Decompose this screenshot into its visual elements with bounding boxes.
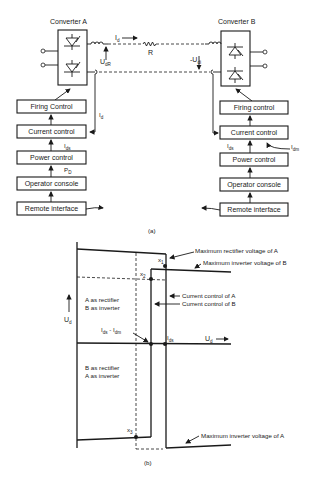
- converter-b-control-stack: Firing control Current control Ids Idm P…: [202, 78, 299, 216]
- svg-text:Idm: Idm: [291, 143, 299, 152]
- svg-text:Firing control: Firing control: [234, 104, 275, 112]
- annotation-current-control-b: Current control of B: [182, 300, 236, 307]
- point-ids: [163, 342, 167, 346]
- converter-b-bridge: [221, 31, 267, 86]
- svg-text:Ids: Ids: [64, 142, 71, 151]
- zero-current-axis: [77, 343, 231, 344]
- svg-text:Operator console: Operator console: [25, 180, 79, 188]
- ac-terminal-icon: [41, 49, 45, 53]
- converter-a-bridge: [41, 30, 87, 85]
- point-margin: [149, 342, 153, 346]
- ac-terminal-icon: [41, 63, 45, 67]
- current-sensor-icon: [95, 70, 97, 78]
- svg-text:Firing Control: Firing Control: [30, 103, 72, 111]
- svg-text:x1: x1: [158, 256, 164, 265]
- annotation-current-control-a: Current control of A: [182, 292, 236, 299]
- inductor-icon: [91, 42, 103, 44]
- ids-label: Ids: [167, 334, 174, 343]
- resistor-icon: [143, 42, 156, 46]
- svg-text:x3: x3: [127, 426, 133, 435]
- annotation-max-rectifier-a: Maximum rectifier voltage of A: [195, 247, 279, 254]
- svg-text:PD: PD: [64, 166, 72, 175]
- dc-line-positive: [87, 42, 221, 46]
- y-axis-label: Ud: [64, 316, 72, 325]
- svg-text:Id: Id: [99, 111, 104, 120]
- figure-b-caption: (b): [144, 459, 152, 466]
- current-feedback-a: [90, 78, 95, 132]
- region-lower-line1: B as rectifier: [85, 364, 119, 371]
- max-inverter-voltage-b-line: [151, 269, 231, 272]
- max-inverter-voltage-a-line: [77, 437, 151, 440]
- point-x3: [134, 435, 138, 439]
- figure-b: x1 x2 x3 Ud Ud A as rectifier B as inver…: [64, 242, 287, 466]
- converter-a-title: Converter A: [50, 18, 87, 25]
- margin-label: Ids - Idm: [101, 326, 121, 335]
- x-axis-label: Ud: [205, 335, 213, 344]
- current-feedback-b: [213, 78, 218, 133]
- svg-text:Ids: Ids: [227, 142, 234, 151]
- region-upper-line1: A as rectifier: [85, 296, 119, 303]
- svg-text:Current control: Current control: [28, 128, 75, 135]
- converter-b-title: Converter B: [218, 18, 256, 25]
- link-current-label: Id: [115, 34, 120, 43]
- hvdc-control-diagram: Converter A Converter B: [0, 0, 323, 478]
- inductor-icon: [209, 42, 221, 44]
- converter-a-control-stack: Firing Control Current control Ids Power…: [17, 78, 104, 215]
- annotation-max-inverter-b: Maximum inverter voltage of B: [203, 259, 287, 266]
- resistance-label: R: [148, 49, 153, 56]
- ac-terminal-icon: [263, 50, 267, 54]
- point-x2: [149, 277, 153, 281]
- current-sensor-icon: [211, 70, 213, 78]
- svg-text:Remote interface: Remote interface: [227, 206, 280, 213]
- svg-text:Remote interface: Remote interface: [25, 205, 78, 212]
- region-upper-line2: B as inverter: [85, 304, 120, 311]
- svg-text:Power control: Power control: [30, 154, 73, 161]
- figure-a-caption: (a): [148, 227, 156, 234]
- max-rectifier-voltage-a-line: [77, 249, 166, 254]
- region-lower-line2: A as inverter: [85, 372, 119, 379]
- annotation-max-inverter-a: Maximum inverter voltage of A: [201, 432, 285, 439]
- figure-a: Converter A Converter B: [17, 18, 299, 234]
- telecom-arrow: [86, 208, 103, 209]
- telecom-arrow: [202, 208, 220, 210]
- dc-line-negative: [87, 70, 221, 78]
- svg-text:x2: x2: [140, 270, 146, 279]
- svg-text:Operator console: Operator console: [227, 181, 281, 189]
- svg-text:Power control: Power control: [233, 156, 276, 163]
- svg-text:Current control: Current control: [231, 129, 278, 136]
- ac-terminal-icon: [263, 64, 267, 68]
